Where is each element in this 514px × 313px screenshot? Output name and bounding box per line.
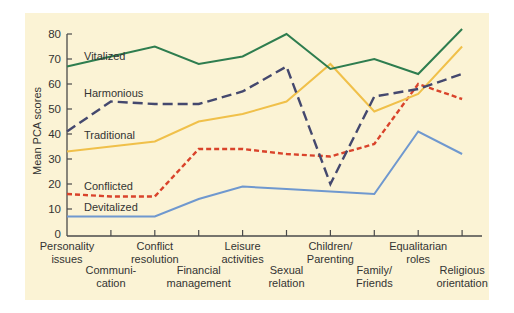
series-label-conflicted: Conflicted: [84, 180, 133, 192]
series-label-harmonious: Harmonious: [84, 87, 144, 99]
y-axis-title: Mean PCA scores: [31, 86, 43, 175]
x-category-label: Equalitarianroles: [389, 240, 447, 265]
x-category-label: Sexualrelation: [268, 264, 304, 289]
x-category-label: Personalityissues: [40, 240, 95, 265]
series-labels: VitalizedHarmoniousTraditionalConflicted…: [84, 50, 144, 213]
axes: 01020304050607080PersonalityissuesCommun…: [40, 28, 488, 289]
x-category-label: Conflictresolution: [131, 240, 179, 265]
series-line-harmonious: [67, 67, 462, 185]
y-tick-label: 80: [48, 28, 61, 40]
x-category-label: Family/Friends: [356, 264, 393, 289]
y-tick-label: 10: [48, 203, 61, 215]
y-tick-label: 50: [48, 103, 61, 115]
series-label-traditional: Traditional: [84, 129, 135, 141]
x-category-label: Children/Parenting: [307, 240, 354, 265]
series-label-devitalized: Devitalized: [84, 201, 138, 213]
x-category-label: Religiousorientation: [436, 264, 487, 289]
series-label-vitalized: Vitalized: [84, 50, 125, 62]
y-tick-label: 60: [48, 78, 61, 90]
x-category-label: Leisureactivities: [222, 240, 265, 265]
x-category-label: Communi-cation: [86, 264, 137, 289]
y-tick-label: 70: [48, 53, 61, 65]
x-category-label: Financialmanagement: [167, 264, 231, 289]
y-tick-label: 40: [48, 128, 61, 140]
y-tick-label: 20: [48, 178, 61, 190]
y-tick-label: 30: [48, 153, 61, 165]
line-chart: 01020304050607080PersonalityissuesCommun…: [0, 0, 514, 313]
y-tick-label: 0: [55, 228, 61, 240]
series-line-vitalized: [67, 29, 462, 74]
